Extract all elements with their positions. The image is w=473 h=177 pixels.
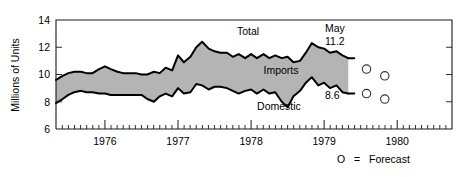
legend-forecast-label: Forecast [369, 153, 410, 165]
units-area-chart: Millions of Units 68101214 1976197719781… [0, 0, 473, 177]
annotation-domestic-value: 8.6 [325, 89, 340, 101]
series-label-imports: Imports [263, 64, 298, 76]
y-tick-label: 14 [38, 14, 50, 26]
annotation-total-value: 11.2 [325, 35, 345, 47]
series-label-total: Total [237, 25, 259, 37]
y-tick-label: 12 [38, 41, 50, 53]
legend-equals-sign: = [354, 153, 360, 165]
series-label-domestic: Domestic [257, 100, 301, 112]
x-tick-label: 1979 [312, 135, 336, 147]
x-tick-label: 1978 [239, 135, 263, 147]
x-tick-label: 1976 [93, 135, 117, 147]
x-tick-label: 1980 [386, 135, 410, 147]
y-axis-title: Millions of Units [9, 38, 21, 112]
y-tick-label: 8 [44, 96, 50, 108]
legend-forecast-symbol: O [337, 153, 345, 165]
annotation-may: May [325, 22, 346, 34]
chart-container: Millions of Units 68101214 1976197719781… [0, 0, 473, 177]
x-tick-label: 1977 [166, 135, 190, 147]
y-tick-label: 6 [44, 123, 50, 135]
y-tick-label: 10 [38, 68, 50, 80]
